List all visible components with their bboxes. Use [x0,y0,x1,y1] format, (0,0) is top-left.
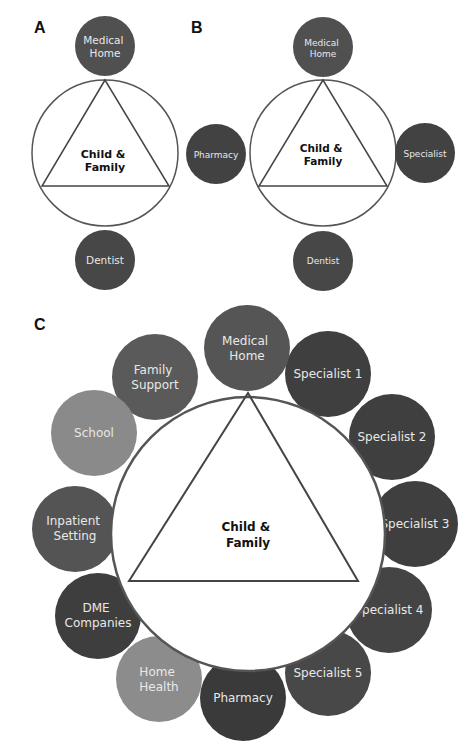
node-dentist: Dentist [75,230,135,290]
svg-text:Medical Home: Medical Home [304,38,341,59]
node-medical-home: Medical Home [75,16,135,76]
svg-text:Dentist: Dentist [86,254,124,266]
care-network-diagram: A Child & Family Medical Home Dentist B … [0,0,472,751]
svg-text:Specialist 5: Specialist 5 [294,666,363,680]
node-specialist: Specialist [395,123,455,183]
svg-text:Dentist: Dentist [307,256,340,266]
svg-text:School: School [74,426,114,440]
node-medical-home: Medical Home [293,17,353,77]
svg-text:Specialist: Specialist [403,149,447,159]
center-label: Child & Family [81,148,130,174]
panel-label-c: C [34,316,46,333]
node-school: School [51,390,137,476]
svg-text:Specialist 3: Specialist 3 [381,517,450,531]
node-pharmacy: Pharmacy [186,124,246,184]
node-inpatient-setting: Inpatient Setting [32,486,118,572]
family-ring [111,397,385,671]
svg-text:Family Support: Family Support [131,363,179,392]
svg-text:Pharmacy: Pharmacy [213,691,273,705]
svg-text:Medical Home: Medical Home [222,334,272,363]
svg-text:Home Health: Home Health [139,665,178,694]
panel-c: C Family Support School Inpatient Settin… [32,305,458,741]
panel-label-b: B [191,19,203,36]
svg-text:Inpatient Setting: Inpatient Setting [46,514,104,543]
center-label: Child & Family [300,142,346,167]
node-specialist-1: Specialist 1 [285,331,371,417]
svg-text:Medical Home: Medical Home [83,34,127,59]
svg-text:Specialist 1: Specialist 1 [294,367,363,381]
svg-text:Pharmacy: Pharmacy [194,150,239,160]
panel-a: A Child & Family Medical Home Dentist [32,16,178,290]
panel-b: B Child & Family Medical Home Pharmacy S… [186,17,455,291]
node-medical-home: Medical Home [204,305,290,391]
node-dentist: Dentist [293,231,353,291]
svg-text:Specialist 2: Specialist 2 [358,430,427,444]
panel-label-a: A [34,19,46,36]
